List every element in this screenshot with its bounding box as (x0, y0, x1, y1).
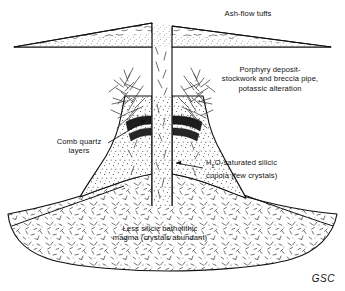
label-comb-quartz-line2: layers (48, 146, 110, 155)
label-porphyry-deposit: Porphyry deposit- stockwork and breccia … (197, 65, 343, 93)
label-comb-quartz-line1: Comb quartz (48, 137, 110, 146)
label-batholith-line1: Less silicic batholithic (76, 224, 244, 233)
label-ash-flow-tuffs: Ash-flow tuffs (203, 9, 293, 18)
label-porphyry-line2: stockwork and breccia pipe, (197, 74, 343, 83)
label-silicic-cupola: H2O-saturated silicic cupola (few crysta… (206, 158, 318, 180)
label-cupola-line2: cupola (few crystals) (206, 171, 318, 180)
label-porphyry-line3: potassic alteration (197, 84, 343, 93)
label-batholithic-magma: Less silicic batholithic magma (crystals… (76, 224, 244, 243)
label-comb-quartz-layers: Comb quartz layers (48, 137, 110, 156)
geologic-cross-section-figure: Ash-flow tuffs Porphyry deposit- stockwo… (0, 0, 345, 291)
gsc-credit: GSC (312, 273, 335, 284)
label-batholith-line2: magma (crystals abundant) (76, 233, 244, 242)
label-cupola-line1: H2O-saturated silicic (206, 158, 318, 171)
ash-flow-tuff-unit (14, 23, 331, 47)
label-porphyry-line1: Porphyry deposit- (197, 65, 343, 74)
